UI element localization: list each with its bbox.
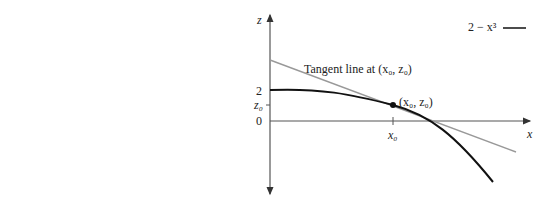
x-axis-label: x — [527, 128, 532, 140]
tangent-point — [390, 102, 396, 108]
tangent-label: Tangent line at (x₀, z₀) — [304, 63, 412, 75]
point-label: (x₀, z₀) — [399, 96, 433, 108]
z-axis-label: z — [257, 14, 262, 26]
z-tick-2: 2 — [256, 85, 262, 97]
z-tick-0: 0 — [256, 115, 262, 127]
legend-label: 2 − x³ — [468, 21, 496, 33]
z-tick-z0: z₀ — [254, 99, 263, 111]
diagram-canvas — [0, 0, 547, 206]
curve-2-minus-x-cubed — [270, 90, 493, 182]
x-tick-x0: x₀ — [388, 129, 398, 141]
